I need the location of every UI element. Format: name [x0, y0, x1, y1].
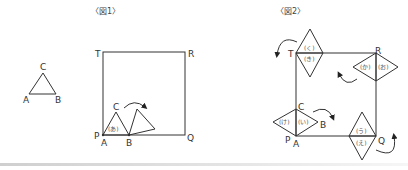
label-A: A	[23, 95, 30, 105]
figure2-square: T R P Q	[285, 46, 385, 146]
corner-T: T	[94, 49, 101, 59]
rotation-arrow-icon	[339, 74, 357, 83]
corner-Q: Q	[187, 133, 194, 143]
region-ke: (け)	[279, 118, 290, 126]
rotation-arrow-icon	[277, 40, 297, 55]
label-B: B	[320, 120, 326, 130]
region-o: (お)	[378, 63, 389, 70]
label-B: B	[126, 138, 132, 148]
rolling-triangle: (あ) C A B	[101, 102, 155, 148]
region-ka: (か)	[360, 63, 371, 71]
region-ki: (き)	[304, 55, 315, 62]
rotation-arrow-icon	[124, 103, 145, 108]
region-u: (う)	[356, 127, 367, 135]
corner-Q: Q	[378, 136, 385, 146]
label-C: C	[298, 102, 304, 112]
small-triangle: C A B	[23, 62, 61, 105]
rhombus-Q: (う) (え)	[349, 112, 395, 160]
corner-P: P	[94, 131, 100, 141]
label-A: A	[293, 139, 300, 149]
rotation-arrow-icon	[313, 109, 333, 118]
label-A: A	[101, 138, 108, 148]
rhombus-P: (け) (い) C B A	[273, 102, 333, 149]
diagram-canvas: 〈図1〉 C A B T R P Q (あ) C A B 〈図2〉 T R P …	[0, 0, 408, 170]
region-ku: (く)	[304, 44, 315, 51]
region-i: (い)	[298, 118, 309, 125]
label-C: C	[40, 62, 46, 72]
corner-P: P	[285, 135, 291, 145]
figure2-title: 〈図2〉	[276, 7, 305, 16]
label-C: C	[113, 102, 119, 112]
rhombus-T: (く) (き)	[277, 29, 323, 77]
label-B: B	[55, 95, 61, 105]
corner-T: T	[287, 49, 294, 59]
rhombus-R: (か) (お)	[339, 53, 398, 83]
bottom-divider	[0, 163, 408, 166]
corner-R: R	[188, 49, 194, 59]
region-a: (あ)	[108, 125, 119, 132]
region-e: (え)	[356, 139, 367, 147]
figure1-title: 〈図1〉	[91, 7, 120, 16]
